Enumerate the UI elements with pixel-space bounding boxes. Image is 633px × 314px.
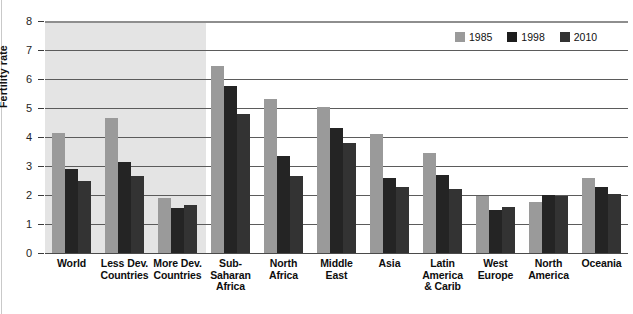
x-label-line: Africa <box>257 270 310 282</box>
y-tick-dash-3 <box>38 166 44 167</box>
y-tick-5: 5 <box>6 103 32 114</box>
x-label-world: World <box>45 258 98 270</box>
bar-2010-north-america <box>555 196 568 253</box>
fertility-rate-bar-chart: Fertility rate 8 7 6 5 4 3 2 1 0 <box>0 0 633 314</box>
bar-1998-oceania <box>595 187 608 253</box>
bar-1985-west-europe <box>476 196 489 253</box>
y-tick-dash-0 <box>38 253 44 254</box>
bar-2010-world <box>78 181 91 253</box>
x-label-line: Countries <box>98 270 151 282</box>
x-label-middle-east: MiddleEast <box>310 258 363 281</box>
bar-2010-oceania <box>608 194 621 253</box>
x-label-line: Less Dev. <box>98 258 151 270</box>
x-label-line: Latin <box>416 258 469 270</box>
y-tick-8: 8 <box>6 16 32 27</box>
bar-2010-less-dev-countries <box>131 176 144 253</box>
gridline-7 <box>45 50 628 51</box>
x-label-line: Countries <box>151 270 204 282</box>
y-tick-2: 2 <box>6 190 32 201</box>
bar-1985-oceania <box>582 178 595 253</box>
y-tick-4: 4 <box>6 132 32 143</box>
x-label-north-america: NorthAmerica <box>522 258 575 281</box>
bar-2010-latin-america-carib <box>449 189 462 253</box>
bar-1985-north-africa <box>264 99 277 253</box>
x-label-line: Africa <box>204 281 257 293</box>
cut-off-caption-strip <box>18 307 348 314</box>
bar-1985-less-dev-countries <box>105 118 118 253</box>
y-tick-6: 6 <box>6 74 32 85</box>
bar-1998-middle-east <box>330 128 343 253</box>
x-label-line: East <box>310 270 363 282</box>
bar-1998-north-africa <box>277 156 290 253</box>
x-label-line: West <box>469 258 522 270</box>
bar-1998-asia <box>383 178 396 253</box>
bar-1998-more-dev-countries <box>171 208 184 253</box>
bar-1985-north-america <box>529 202 542 253</box>
legend-swatch-icon-1998 <box>507 32 517 42</box>
bar-2010-middle-east <box>343 143 356 253</box>
bar-1998-world <box>65 169 78 253</box>
x-label-north-africa: NorthAfrica <box>257 258 310 281</box>
legend-item-1998: 1998 <box>507 31 544 43</box>
gridline-6 <box>45 79 628 80</box>
y-tick-dash-4 <box>38 137 44 138</box>
gridline-5 <box>45 108 628 109</box>
x-label-line: North <box>257 258 310 270</box>
y-tick-dash-7 <box>38 50 44 51</box>
x-label-line: Oceania <box>575 258 628 270</box>
y-tick-dash-8 <box>38 21 44 22</box>
legend-swatch-icon-1985 <box>455 32 465 42</box>
gridline-8 <box>45 21 628 23</box>
bar-1998-north-america <box>542 195 555 253</box>
bar-1985-sub-saharan-africa <box>211 66 224 253</box>
legend-item-2010: 2010 <box>560 31 597 43</box>
legend-label-1998: 1998 <box>521 31 544 43</box>
x-label-line: Europe <box>469 270 522 282</box>
x-label-sub-saharan-africa: Sub-SaharanAfrica <box>204 258 257 293</box>
x-label-more-dev-countries: More Dev.Countries <box>151 258 204 281</box>
x-label-line: More Dev. <box>151 258 204 270</box>
y-tick-dash-5 <box>38 108 44 109</box>
bar-2010-west-europe <box>502 207 515 253</box>
legend-label-1985: 1985 <box>469 31 492 43</box>
legend: 1985 1998 2010 <box>455 31 597 43</box>
y-tick-0: 0 <box>6 248 32 259</box>
bar-1998-less-dev-countries <box>118 162 131 253</box>
bar-1998-sub-saharan-africa <box>224 86 237 253</box>
bar-2010-sub-saharan-africa <box>237 114 250 253</box>
x-label-west-europe: WestEurope <box>469 258 522 281</box>
bar-1985-asia <box>370 134 383 253</box>
y-tick-dash-1 <box>38 224 44 225</box>
x-label-latin-america-carib: LatinAmerica& Carib <box>416 258 469 293</box>
y-tick-7: 7 <box>6 45 32 56</box>
x-label-asia: Asia <box>363 258 416 270</box>
x-label-line: Middle <box>310 258 363 270</box>
gridline-0-baseline <box>45 253 628 254</box>
bar-1985-more-dev-countries <box>158 198 171 253</box>
bar-1985-latin-america-carib <box>423 153 436 253</box>
bar-1998-latin-america-carib <box>436 175 449 253</box>
x-label-line: World <box>45 258 98 270</box>
x-label-line: Asia <box>363 258 416 270</box>
bar-2010-north-africa <box>290 176 303 253</box>
x-label-line: America <box>522 270 575 282</box>
y-tick-1: 1 <box>6 219 32 230</box>
legend-label-2010: 2010 <box>574 31 597 43</box>
bar-2010-more-dev-countries <box>184 205 197 253</box>
bar-1998-west-europe <box>489 210 502 254</box>
y-tick-dash-2 <box>38 195 44 196</box>
x-label-line: & Carib <box>416 281 469 293</box>
x-label-oceania: Oceania <box>575 258 628 270</box>
x-label-line: Sub- <box>204 258 257 270</box>
legend-swatch-icon-2010 <box>560 32 570 42</box>
y-tick-3: 3 <box>6 161 32 172</box>
x-label-less-dev-countries: Less Dev.Countries <box>98 258 151 281</box>
plot-area <box>45 21 628 253</box>
legend-item-1985: 1985 <box>455 31 492 43</box>
bar-1985-world <box>52 133 65 253</box>
bar-1985-middle-east <box>317 107 330 253</box>
x-label-line: North <box>522 258 575 270</box>
bar-2010-asia <box>396 187 409 253</box>
y-tick-dash-6 <box>38 79 44 80</box>
